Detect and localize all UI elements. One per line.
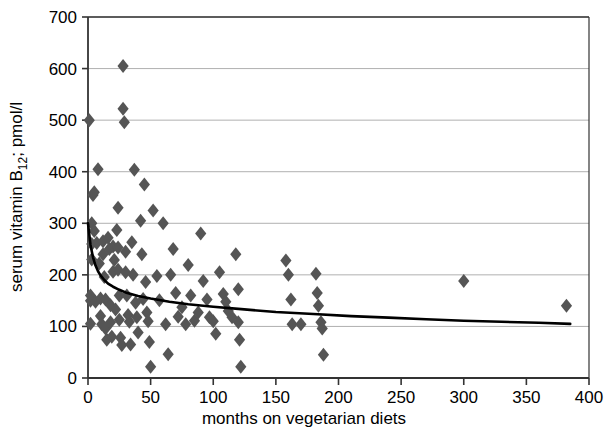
data-point <box>144 335 155 349</box>
data-point <box>126 235 137 249</box>
data-point <box>280 253 291 267</box>
data-point <box>148 203 159 217</box>
x-tick-label-150: 150 <box>262 388 290 407</box>
data-point <box>139 178 150 192</box>
data-point <box>312 286 323 300</box>
chart-container: 0100200300400500600700 05010015020025030… <box>0 0 608 430</box>
data-point <box>136 247 147 261</box>
data-point <box>195 227 206 241</box>
data-point <box>210 327 221 341</box>
y-axis-title-group: serum vitamin B12; pmol/l <box>7 102 30 292</box>
y-tick-label-100: 100 <box>49 317 77 336</box>
data-point <box>119 115 130 129</box>
data-point <box>145 360 156 374</box>
gridlines-group <box>88 17 589 326</box>
data-point <box>84 113 95 127</box>
x-tick-label-250: 250 <box>387 388 415 407</box>
data-point <box>180 317 191 331</box>
data-point <box>140 275 151 289</box>
data-point <box>234 333 245 347</box>
data-point <box>165 268 176 282</box>
data-point <box>214 265 225 279</box>
y-tick-label-200: 200 <box>49 266 77 285</box>
data-point <box>160 317 171 331</box>
data-point <box>85 317 96 331</box>
data-point <box>318 348 329 362</box>
y-tick-label-700: 700 <box>49 8 77 27</box>
y-tick-label-500: 500 <box>49 111 77 130</box>
x-tick-label-100: 100 <box>199 388 227 407</box>
data-point <box>168 242 179 256</box>
data-point <box>295 317 306 331</box>
x-tick-label-300: 300 <box>450 388 478 407</box>
x-tick-label-350: 350 <box>512 388 540 407</box>
data-point <box>117 102 128 116</box>
y-tick-label-0: 0 <box>68 369 77 388</box>
data-point <box>561 299 572 313</box>
data-point <box>198 274 209 288</box>
x-axis-title: months on vegetarian diets <box>202 409 406 428</box>
y-tick-label-300: 300 <box>49 214 77 233</box>
y-axis-title-subscript: 12 <box>16 156 30 170</box>
data-point <box>235 360 246 374</box>
x-tick-label-50: 50 <box>141 388 160 407</box>
data-point <box>458 274 469 288</box>
data-point <box>313 299 324 313</box>
x-tick-label-400: 400 <box>575 388 603 407</box>
data-point <box>112 201 123 215</box>
data-point <box>151 269 162 283</box>
data-point <box>117 59 128 73</box>
x-tick-label-0: 0 <box>83 388 92 407</box>
data-point <box>125 337 136 351</box>
data-point <box>285 293 296 307</box>
data-point <box>233 282 244 296</box>
data-point <box>310 267 321 281</box>
data-point <box>230 247 241 261</box>
data-point <box>111 223 122 237</box>
x-tick-label-200: 200 <box>324 388 352 407</box>
y-axis-title-tail: ; pmol/l <box>7 102 26 157</box>
data-point <box>92 162 103 176</box>
data-point <box>133 326 144 340</box>
y-tick-label-600: 600 <box>49 60 77 79</box>
data-point <box>185 288 196 302</box>
data-point <box>283 268 294 282</box>
data-point <box>158 216 169 230</box>
data-point <box>170 286 181 300</box>
data-point <box>183 258 194 272</box>
x-axis-ticks-group: 050100150200250300350400 <box>83 378 603 407</box>
y-axis-ticks-group: 0100200300400500600700 <box>49 8 88 388</box>
data-point <box>129 163 140 177</box>
scatter-plot-svg: 0100200300400500600700 05010015020025030… <box>0 0 608 430</box>
data-point <box>135 214 146 228</box>
data-point <box>163 347 174 361</box>
y-tick-label-400: 400 <box>49 163 77 182</box>
y-axis-title: serum vitamin B12; pmol/l <box>7 102 30 292</box>
y-axis-title-main: serum vitamin B <box>7 170 26 292</box>
